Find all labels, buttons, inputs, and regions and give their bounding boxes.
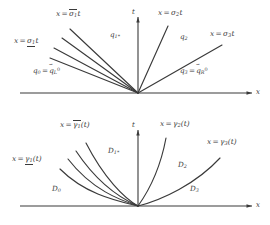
right-curves — [138, 138, 220, 206]
region-q2-label: q2 — [180, 32, 188, 41]
t-axis-label-top: t — [132, 8, 135, 16]
gamma-3-label: x=γ3(t) — [207, 138, 237, 146]
t-axis-top — [136, 17, 139, 93]
t-axis-bottom — [136, 130, 139, 206]
sigma-3-label: x=σ3t — [210, 30, 234, 38]
characteristic-sigma1-bar — [70, 29, 138, 93]
region-D3-label: D3 — [190, 184, 199, 193]
x-axis-label-bottom: x — [256, 201, 260, 209]
region-D2-label: D2 — [178, 160, 187, 169]
bottom-panel-canvas — [0, 112, 270, 224]
left-rarefaction-fan — [50, 29, 138, 93]
wave-structure-figure: x=σ1t x=σ1t x=σ2t x=σ3t q0=qL0 q1* q2 q3… — [0, 0, 270, 225]
gamma-1-bar-label: x=γ1(t) — [60, 120, 90, 130]
x-axis-label-top: x — [256, 88, 260, 96]
sigma-1-under-label: x=σ1t — [14, 37, 38, 47]
characteristic-fan-b — [62, 38, 138, 93]
t-axis-label-bottom: t — [132, 121, 135, 129]
gamma-2-label: x=γ2(t) — [160, 120, 190, 128]
sigma-1-bar-label: x=σ1t — [56, 9, 80, 19]
region-q0-label: q0=qL0 — [33, 66, 60, 75]
sigma-2-label: x=σ2t — [158, 9, 182, 17]
characteristic-sigma2 — [138, 26, 168, 93]
curved-characteristic-panel: x=γ1(t) x=γ1(t) x=γ2(t) x=γ3(t) D1* D0 D… — [0, 112, 270, 224]
top-panel-canvas — [0, 0, 270, 112]
curve-gamma2 — [138, 138, 166, 206]
left-curved-fan — [60, 143, 138, 206]
region-q3-label: q3=qR0 — [180, 66, 208, 75]
straight-characteristic-panel: x=σ1t x=σ1t x=σ2t x=σ3t q0=qL0 q1* q2 q3… — [0, 0, 270, 112]
region-D0-label: D0 — [52, 184, 61, 193]
gamma-1-under-label: x=γ1(t) — [12, 155, 42, 165]
characteristic-fan-c — [54, 48, 138, 93]
characteristic-sigma1-under — [50, 58, 138, 93]
region-q1star-label: q1* — [110, 30, 120, 39]
region-D1star-label: D1* — [108, 146, 119, 155]
